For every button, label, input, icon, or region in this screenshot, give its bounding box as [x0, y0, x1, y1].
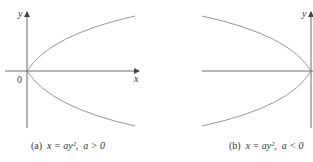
panel-a-x-label: x — [133, 73, 139, 84]
panel-a: y x 0 — [5, 8, 139, 128]
panel-a-caption-condition: a > 0 — [83, 140, 105, 151]
panel-b-caption-equation: x = ay² — [246, 140, 275, 151]
panel-a-y-label: y — [17, 8, 23, 19]
panel-b-caption-condition: a < 0 — [282, 140, 304, 151]
panel-b: y — [202, 8, 313, 128]
panel-b-caption: (b) x = ay², a < 0 — [229, 140, 304, 151]
panel-a-origin-label: 0 — [17, 74, 22, 85]
panel-a-caption-equation: x = ay² — [47, 140, 76, 151]
panel-a-caption: (a) x = ay², a > 0 — [31, 140, 105, 151]
panel-b-caption-label: (b) — [229, 140, 241, 151]
figure-canvas: y x 0 y — [0, 0, 313, 162]
panel-a-caption-label: (a) — [31, 140, 42, 151]
panel-b-y-label: y — [301, 8, 307, 19]
